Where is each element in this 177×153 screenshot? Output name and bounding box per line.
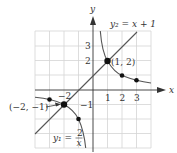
tick-x-1: 1 xyxy=(105,93,111,103)
point-3-two-thirds xyxy=(134,78,139,83)
y-axis-label: y xyxy=(89,4,96,14)
tick-x-neg2: −2 xyxy=(58,91,71,101)
tick-x-3: 3 xyxy=(134,93,140,103)
point-1-2 xyxy=(104,58,110,64)
annotation-neg2-neg1: (−2, −1) xyxy=(9,102,48,112)
label-y1-lhs: y₁ = xyxy=(52,133,72,143)
point-2-1 xyxy=(120,73,125,78)
annotation-1-2: (1, 2) xyxy=(111,57,135,67)
x-axis-arrow-icon xyxy=(157,87,166,93)
point-neg2-neg1 xyxy=(61,101,67,107)
label-y2: y₂ = x + 1 xyxy=(109,19,156,29)
label-y1-denominator: x xyxy=(77,138,82,148)
tick-y-neg1: −1 xyxy=(80,100,93,110)
graph-plot: x y −2 1 2 3 3 2 −1 (1, 2) (−2, −1) y₂ =… xyxy=(0,0,177,153)
label-y1-numerator: 2 xyxy=(77,128,83,138)
tick-y-2: 2 xyxy=(85,56,91,66)
y-axis-arrow-icon xyxy=(90,16,96,25)
tick-y-3: 3 xyxy=(85,41,91,51)
x-axis-label: x xyxy=(169,85,174,95)
point-neg1-neg2 xyxy=(76,117,81,122)
tick-x-2: 2 xyxy=(120,93,126,103)
